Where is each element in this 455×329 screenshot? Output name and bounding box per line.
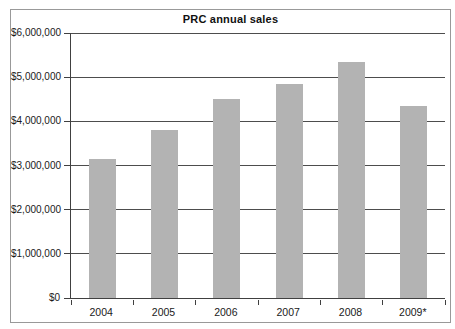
plot-area (70, 33, 445, 299)
x-axis-tick (71, 300, 72, 305)
y-axis-tick (64, 121, 70, 122)
gridline (71, 209, 445, 210)
y-axis-tick-label: $4,000,000 (11, 115, 60, 126)
y-axis-tick (64, 209, 70, 210)
gridline (71, 165, 445, 166)
y-axis-tick-label: $3,000,000 (11, 160, 60, 171)
x-axis-tick (445, 300, 446, 305)
bar-2006 (213, 99, 240, 298)
x-axis-label-2006: 2006 (196, 306, 256, 318)
x-axis-tick (133, 300, 134, 305)
chart-title: PRC annual sales (11, 13, 450, 25)
x-axis-label-2007: 2007 (258, 306, 318, 318)
bar-2009 (400, 106, 427, 298)
y-axis-tick (64, 33, 70, 34)
y-axis-tick-label: $1,000,000 (11, 248, 60, 259)
gridline (71, 121, 445, 122)
x-axis-label-2004: 2004 (71, 306, 131, 318)
y-axis-tick (64, 165, 70, 166)
y-axis-tick (64, 298, 70, 299)
bar-2007 (276, 84, 303, 298)
chart-canvas: PRC annual sales $0$1,000,000$2,000,000$… (0, 0, 455, 329)
y-axis-tick-label: $2,000,000 (11, 204, 60, 215)
x-axis-tick (258, 300, 259, 305)
x-axis-tick (195, 300, 196, 305)
bar-2008 (338, 62, 365, 298)
x-axis-tick (382, 300, 383, 305)
gridline (71, 77, 445, 78)
chart-frame: PRC annual sales $0$1,000,000$2,000,000$… (10, 9, 451, 323)
y-axis-tick-label: $0 (11, 292, 60, 303)
gridline (71, 253, 445, 254)
x-axis-label-2008: 2008 (321, 306, 381, 318)
x-axis-label-2009: 2009* (383, 306, 443, 318)
x-axis-tick (320, 300, 321, 305)
y-axis-tick (64, 77, 70, 78)
gridline (71, 33, 445, 34)
bar-2004 (89, 159, 116, 298)
y-axis-tick-label: $5,000,000 (11, 71, 60, 82)
y-axis-tick (64, 253, 70, 254)
x-axis-label-2005: 2005 (134, 306, 194, 318)
bar-2005 (151, 130, 178, 298)
y-axis-tick-label: $6,000,000 (11, 27, 60, 38)
